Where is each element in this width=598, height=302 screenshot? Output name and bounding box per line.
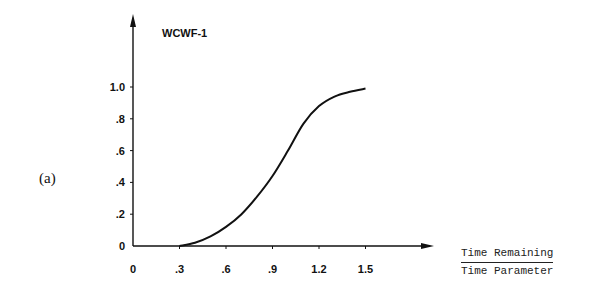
ticks (130, 87, 366, 249)
x-tick-label: 1.2 (311, 263, 326, 275)
x-tick-label: .6 (221, 263, 230, 275)
x-tick-label: .9 (268, 263, 277, 275)
data-curve (180, 89, 366, 246)
chart-title: WCWF-1 (162, 27, 207, 39)
x-tick-label: .3 (175, 263, 184, 275)
y-tick-label: .4 (116, 176, 126, 188)
y-tick-label: .8 (116, 113, 125, 125)
panel-label: (a) (39, 170, 56, 187)
x-tick-label: 0 (130, 263, 136, 275)
y-tick-label: 1.0 (110, 81, 125, 93)
y-tick-label: 0 (119, 240, 125, 252)
y-tick-label: .6 (116, 145, 125, 157)
y-axis-arrow-icon (130, 14, 136, 27)
x-axis-label-numerator: Time Remaining (461, 246, 553, 263)
x-axis-label-denominator: Time Parameter (461, 263, 553, 279)
y-tick-label: .2 (116, 208, 125, 220)
x-tick-label: 1.5 (358, 263, 373, 275)
x-axis-label: Time Remaining Time Parameter (461, 246, 553, 279)
x-axis-arrow-icon (421, 243, 434, 249)
